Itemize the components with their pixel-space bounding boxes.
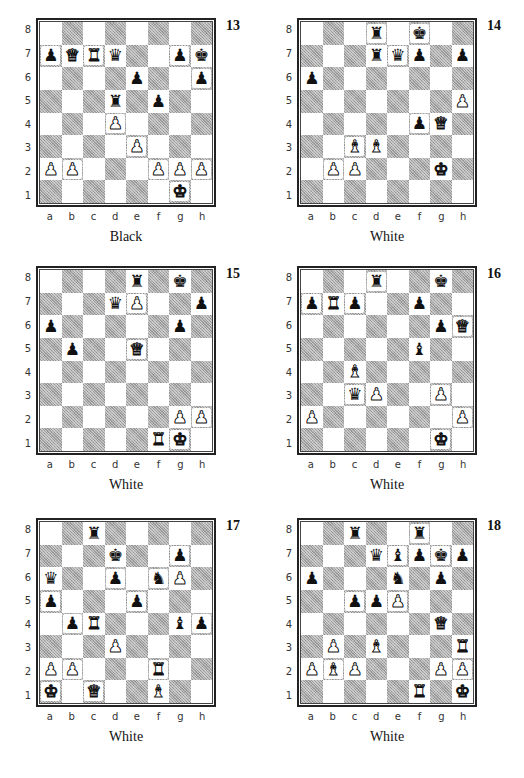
square-f5 xyxy=(148,338,170,361)
square-d5 xyxy=(366,90,388,113)
black-bishop-icon: ♝ xyxy=(170,614,189,633)
rank-label: 3 xyxy=(283,384,295,408)
white-queen-icon: ♛ xyxy=(127,340,146,359)
rank-label: 3 xyxy=(283,136,295,160)
square-f4 xyxy=(148,361,170,384)
square-c5 xyxy=(344,338,366,361)
square-d6 xyxy=(366,315,388,338)
square-c6 xyxy=(83,567,105,590)
white-king-icon: ♚ xyxy=(431,430,450,449)
square-c3 xyxy=(344,635,366,658)
black-pawn-icon: ♟ xyxy=(410,114,429,133)
black-queen-icon: ♛ xyxy=(367,546,386,565)
rank-labels: 87654321 xyxy=(283,266,295,455)
square-c7: ♜ xyxy=(83,45,105,68)
square-b7 xyxy=(323,545,345,568)
square-g2: ♟ xyxy=(169,158,191,181)
square-g8 xyxy=(169,22,191,45)
square-d2 xyxy=(105,406,127,429)
diagram-number: 13 xyxy=(226,18,240,34)
square-e5: ♛ xyxy=(126,338,148,361)
black-rook-icon: ♜ xyxy=(127,272,146,291)
rank-label: 2 xyxy=(22,160,34,184)
rank-label: 7 xyxy=(283,42,295,66)
square-c4: ♜ xyxy=(83,613,105,636)
square-h1 xyxy=(452,428,474,451)
square-d4: ♟ xyxy=(105,113,127,136)
square-a2 xyxy=(40,406,62,429)
square-c3: ♛ xyxy=(344,383,366,406)
square-d1 xyxy=(366,680,388,703)
square-e8 xyxy=(387,22,409,45)
square-g6: ♟ xyxy=(430,315,452,338)
square-f1 xyxy=(409,428,431,451)
square-a2: ♟ xyxy=(40,658,62,681)
square-b2: ♟ xyxy=(62,658,84,681)
rank-labels: 87654321 xyxy=(22,518,34,707)
white-pawn-icon: ♟ xyxy=(170,569,189,588)
white-rook-icon: ♜ xyxy=(149,430,168,449)
square-d8: ♜ xyxy=(366,270,388,293)
white-bishop-icon: ♝ xyxy=(345,362,364,381)
white-rook-icon: ♜ xyxy=(410,682,429,701)
rank-label: 2 xyxy=(283,160,295,184)
black-pawn-icon: ♟ xyxy=(410,546,429,565)
square-h5 xyxy=(452,338,474,361)
square-d1 xyxy=(105,428,127,451)
file-label: c xyxy=(83,211,105,223)
square-g5 xyxy=(430,590,452,613)
square-b6 xyxy=(62,67,84,90)
square-f3 xyxy=(148,635,170,658)
rank-label: 4 xyxy=(283,113,295,137)
square-h7 xyxy=(452,293,474,316)
square-b5 xyxy=(323,338,345,361)
square-g1: ♚ xyxy=(169,180,191,203)
black-pawn-icon: ♟ xyxy=(127,69,146,88)
white-bishop-icon: ♝ xyxy=(367,637,386,656)
square-e1 xyxy=(387,428,409,451)
black-rook-icon: ♜ xyxy=(367,272,386,291)
square-e3 xyxy=(126,635,148,658)
square-a7 xyxy=(301,545,323,568)
square-e3 xyxy=(387,383,409,406)
file-label: b xyxy=(322,459,344,471)
side-to-move-caption: White xyxy=(297,229,477,245)
square-f4: ♟ xyxy=(409,113,431,136)
square-f5 xyxy=(148,590,170,613)
file-label: d xyxy=(365,211,387,223)
square-h1 xyxy=(191,180,213,203)
square-d8 xyxy=(366,522,388,545)
white-pawn-icon: ♟ xyxy=(345,160,364,179)
square-f7: ♟ xyxy=(409,545,431,568)
square-d8 xyxy=(105,522,127,545)
black-king-icon: ♚ xyxy=(106,546,125,565)
white-queen-icon: ♛ xyxy=(431,614,450,633)
square-f6 xyxy=(409,315,431,338)
rank-label: 1 xyxy=(22,683,34,707)
square-g3 xyxy=(430,635,452,658)
square-a1 xyxy=(301,180,323,203)
square-b5 xyxy=(323,590,345,613)
white-pawn-icon: ♟ xyxy=(324,160,343,179)
black-king-icon: ♚ xyxy=(170,272,189,291)
black-king-icon: ♚ xyxy=(431,546,450,565)
square-b4 xyxy=(62,361,84,384)
chess-diagram-18: 87654321 ♜♜♛♝♟♚♟♟♞♟♟♟♟♛♟♝♜♟♝♟♟♟♜♚ 18 abc… xyxy=(261,500,523,755)
side-to-move-caption: White xyxy=(297,477,477,493)
square-a7 xyxy=(40,293,62,316)
square-h1: ♚ xyxy=(452,680,474,703)
black-pawn-icon: ♟ xyxy=(170,46,189,65)
square-a6: ♟ xyxy=(301,67,323,90)
square-f1 xyxy=(409,180,431,203)
rank-label: 8 xyxy=(22,518,34,542)
file-label: c xyxy=(83,711,105,723)
square-a6 xyxy=(40,67,62,90)
file-labels: abcdefgh xyxy=(39,211,213,223)
square-e5 xyxy=(387,338,409,361)
chessboard: ♜♚♟♛♟♞♟♟♟♟♜♝♟♟♟♟♜♚♛♝ xyxy=(36,518,216,707)
rank-label: 7 xyxy=(283,542,295,566)
rank-label: 7 xyxy=(22,42,34,66)
square-f8 xyxy=(148,522,170,545)
square-h1 xyxy=(191,428,213,451)
square-e2 xyxy=(387,158,409,181)
